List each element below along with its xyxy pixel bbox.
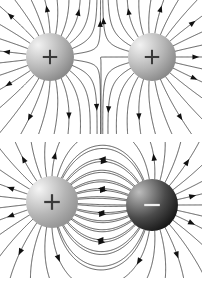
field-line [0, 143, 33, 184]
field-arrowhead [106, 106, 111, 113]
field-line [61, 78, 69, 134]
field-arrowhead [190, 75, 197, 80]
charge-sign-vertical-bar [49, 50, 51, 64]
field-line [57, 142, 83, 177]
field-line [160, 142, 165, 180]
field-arrowhead [183, 159, 189, 166]
field-line [68, 222, 135, 240]
field-arrowhead [152, 154, 157, 161]
field-line [66, 0, 80, 39]
field-line [53, 80, 58, 134]
unlike-charges-panel [0, 142, 202, 278]
field-arrowhead [137, 257, 143, 264]
charge-sign-vertical-bar [51, 194, 53, 210]
field-line [160, 230, 166, 278]
field-line [161, 79, 195, 134]
field-line [0, 75, 34, 111]
field-line [173, 30, 202, 46]
field-line [78, 204, 126, 205]
field-arrowhead [19, 248, 24, 256]
field-line [139, 79, 144, 134]
field-line [30, 226, 41, 278]
field-arrowhead [173, 251, 178, 259]
charge-sign-horizontal-bar [144, 204, 160, 206]
field-line [173, 68, 202, 84]
field-line [175, 44, 202, 51]
field-arrowhead [22, 156, 28, 164]
field-arrowhead [189, 194, 196, 199]
field-line [45, 142, 47, 177]
field-line [177, 210, 202, 217]
field-arrowhead [55, 254, 60, 262]
field-line [127, 0, 138, 37]
field-arrowhead [189, 21, 196, 27]
field-line [44, 0, 50, 33]
field-line [165, 142, 182, 182]
field-line [149, 81, 157, 134]
field-line [45, 227, 51, 278]
field-arrowhead [66, 113, 71, 120]
field-line [161, 0, 182, 35]
charge-sign-vertical-bar [151, 50, 153, 64]
field-line [127, 77, 138, 134]
negative-charge-dipole [126, 179, 178, 231]
field-arrowhead [136, 113, 141, 120]
field-line [175, 63, 202, 70]
field-line [57, 227, 145, 270]
field-line [56, 0, 58, 34]
like-charges-panel [0, 0, 202, 134]
field-line [149, 0, 152, 33]
positive-charge-left [26, 33, 74, 81]
field-line [0, 60, 26, 63]
field-arrowhead [7, 212, 15, 217]
field-line [75, 215, 130, 223]
field-arrowhead [192, 54, 199, 59]
field-arrowhead [5, 81, 12, 87]
positive-charge-right [128, 33, 176, 81]
field-line [108, 0, 131, 46]
field-arrowhead [94, 104, 99, 111]
field-arrowhead [188, 219, 196, 225]
unlike-charges-diagram [0, 142, 202, 278]
field-line [70, 71, 90, 134]
field-line [116, 0, 134, 41]
field-line [18, 80, 44, 134]
field-arrowhead [3, 50, 10, 55]
field-line [52, 142, 62, 176]
field-arrowhead [45, 5, 50, 12]
field-arrowhead [157, 6, 162, 13]
field-line [116, 73, 134, 134]
field-line [0, 205, 26, 209]
field-line [0, 78, 39, 134]
field-line [169, 224, 202, 278]
field-arrowhead [28, 114, 33, 121]
field-line [72, 0, 97, 48]
field-arrowhead [177, 113, 183, 120]
field-line [0, 196, 26, 199]
field-line [61, 0, 69, 36]
field-line [58, 227, 144, 267]
field-line [166, 0, 201, 37]
field-arrowhead [75, 9, 80, 16]
field-line [176, 179, 202, 194]
field-line [0, 51, 26, 54]
field-line [103, 63, 129, 134]
like-charges-diagram [0, 0, 202, 134]
field-line [139, 0, 144, 35]
field-arrowhead [7, 187, 15, 192]
field-line [103, 0, 129, 51]
field-line [63, 148, 143, 180]
field-line [0, 3, 34, 39]
field-arrowhead [127, 8, 132, 15]
field-line [31, 142, 42, 178]
field-line [29, 0, 44, 34]
positive-charge-dipole [26, 176, 78, 228]
field-line [145, 231, 155, 278]
electric-field-figure [0, 0, 202, 284]
field-line [170, 73, 202, 101]
field-line [72, 218, 131, 229]
field-line [170, 13, 202, 41]
field-line [0, 219, 33, 261]
field-line [37, 81, 50, 134]
